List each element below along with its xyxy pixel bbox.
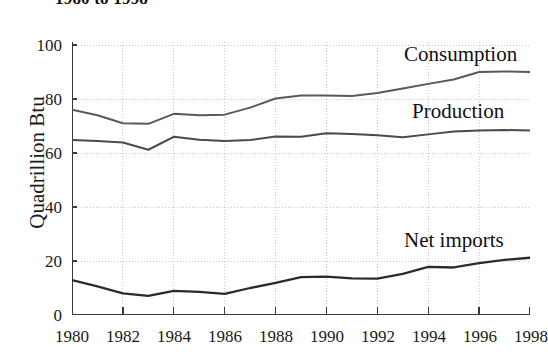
chart-canvas: [72, 42, 530, 315]
y-tick-label-60: 60: [18, 144, 62, 164]
gridlines: [72, 42, 530, 315]
x-tick-label-1990: 1990: [299, 327, 355, 347]
y-tick-label-40: 40: [18, 198, 62, 218]
axis-ticks: [72, 45, 530, 315]
x-tick-label-1982: 1982: [95, 327, 151, 347]
x-tick-label-1992: 1992: [350, 327, 406, 347]
series-label-consumption: Consumption: [404, 42, 517, 67]
y-tick-label-100: 100: [18, 36, 62, 56]
x-tick-label-1994: 1994: [401, 327, 457, 347]
axis-lines: [72, 42, 530, 315]
x-tick-label-1998: 1998: [503, 327, 548, 347]
chart-figure: 1980 to 1998 Quadrillion Btu 100 80 60 4…: [0, 0, 548, 352]
x-tick-label-1996: 1996: [452, 327, 508, 347]
y-tick-label-80: 80: [18, 90, 62, 110]
x-tick-label-1984: 1984: [146, 327, 202, 347]
chart-title: 1980 to 1998: [55, 0, 148, 9]
series-label-net-imports: Net imports: [404, 228, 504, 253]
x-tick-label-1980: 1980: [44, 327, 100, 347]
plot-area: [72, 42, 530, 315]
series-label-production: Production: [412, 99, 504, 124]
y-tick-label-0: 0: [18, 306, 62, 326]
y-tick-label-20: 20: [18, 252, 62, 272]
x-tick-label-1986: 1986: [197, 327, 253, 347]
x-tick-label-1988: 1988: [248, 327, 304, 347]
